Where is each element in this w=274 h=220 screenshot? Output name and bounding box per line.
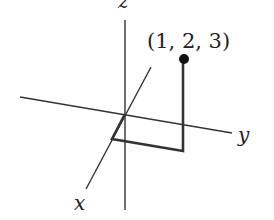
point-label: (1, 2, 3) xyxy=(147,29,230,53)
z-axis-label: z xyxy=(117,0,129,13)
coordinate-diagram: (1, 2, 3) z y x xyxy=(0,0,274,220)
x-axis-label: x xyxy=(74,191,85,215)
point-marker xyxy=(179,54,189,64)
y-axis-label: y xyxy=(237,123,250,147)
